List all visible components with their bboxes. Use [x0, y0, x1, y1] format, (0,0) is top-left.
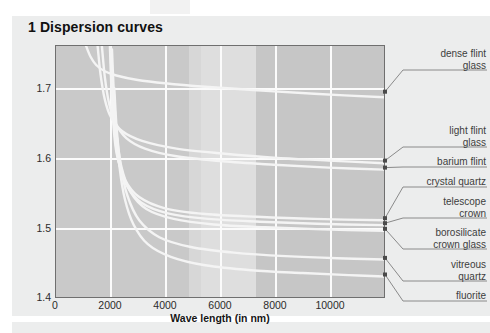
- dispersion-curves: [56, 46, 385, 298]
- callout-telescope-crown: telescope crown: [443, 196, 486, 219]
- curve-crystal-quartz: [110, 46, 385, 220]
- x-tick-label-3: 4000: [149, 299, 181, 311]
- callout-labels: dense flint glass light flint glass bari…: [386, 40, 490, 310]
- y-tick-label-3: 1.5: [36, 222, 51, 234]
- callout-light-flint-glass: light flint glass: [449, 125, 486, 148]
- x-tick-label-2: 2000: [94, 299, 126, 311]
- y-axis-tick-column: 1.7 1.6 1.5 1.4: [18, 0, 51, 333]
- y-tick-label-2: 1.6: [36, 152, 51, 164]
- curve-barium-flint: [102, 46, 385, 170]
- plot-area: Refractive index: [55, 45, 385, 298]
- callout-fluorite: fluorite: [456, 290, 486, 302]
- curve-vitreous-quartz: [114, 88, 385, 259]
- x-tick-label-5: 8000: [259, 299, 291, 311]
- callout-vitreous-quartz: vitreous quartz: [451, 259, 486, 282]
- x-axis-title: Wave length (in nm): [95, 312, 345, 324]
- x-tick-label-6: 10000: [311, 299, 349, 311]
- page-top-artifact: [150, 0, 190, 14]
- x-tick-label-4: 6000: [204, 299, 236, 311]
- callout-crystal-quartz: crystal quartz: [427, 176, 486, 188]
- callout-borosilicate-crown: borosilicate crown glass: [433, 227, 486, 250]
- callout-dense-flint-glass: dense flint glass: [440, 48, 486, 71]
- callout-barium-flint: barium flint: [437, 156, 486, 168]
- y-tick-label-1: 1.7: [36, 82, 51, 94]
- page-left-margin: [0, 0, 12, 333]
- figure-page: 1 Dispersion curves 1.7 1.6 1.5 1.4 0 20…: [0, 0, 490, 333]
- plot-canvas: [55, 45, 385, 298]
- curve-telescope-crown: [111, 46, 386, 225]
- x-tick-label-1: 0: [39, 299, 71, 311]
- curve-dense-flint-glass: [86, 46, 385, 97]
